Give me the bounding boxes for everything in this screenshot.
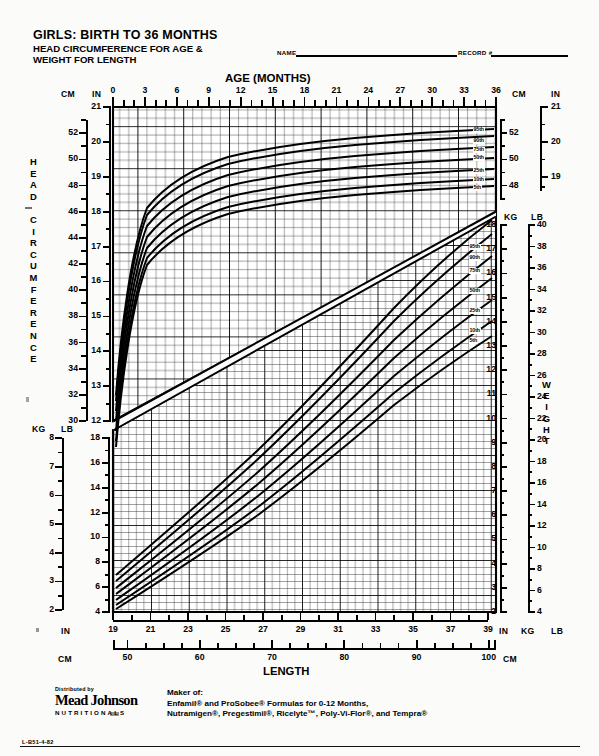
weight-kg-right-tick bbox=[500, 273, 507, 275]
growth-chart-page: GIRLS: BIRTH TO 36 MONTHS HEAD CIRCUMFER… bbox=[0, 0, 599, 756]
weight-lb-right-label: 38 bbox=[537, 241, 547, 251]
age-tick bbox=[463, 97, 465, 106]
hc-title-letter: E bbox=[28, 168, 39, 180]
length-cm-tick bbox=[181, 643, 183, 648]
weight-lb-right-label: 6 bbox=[537, 585, 542, 595]
weight-kg-right-label: 9 bbox=[478, 437, 496, 447]
weight-lb-left-tick bbox=[102, 611, 110, 613]
hc-cm-tick-label: 50 bbox=[54, 153, 78, 163]
weight-lb-left-tick bbox=[105, 450, 110, 452]
length-cm-tick bbox=[145, 643, 147, 648]
weight-lb-left-label: 10 bbox=[81, 531, 100, 541]
length-in-tick bbox=[356, 615, 358, 620]
weight-kg-left-tick bbox=[58, 538, 62, 540]
maker-products-line-1: Enfamil® and ProSobee® Formulas for 0-12… bbox=[167, 699, 497, 710]
growth-chart-graphic bbox=[0, 0, 599, 756]
hc-in-tick-label: 17 bbox=[81, 241, 101, 251]
age-tick-label: 0 bbox=[102, 85, 124, 95]
weight-lb-right-label: 16 bbox=[537, 477, 547, 487]
weight-lb-left-tick bbox=[105, 524, 110, 526]
weight-kg-right-label: 11 bbox=[478, 388, 496, 398]
length-in-tick-label: 31 bbox=[327, 624, 349, 634]
weight-lb-right-tick bbox=[528, 557, 532, 559]
hc-title-letter: R bbox=[28, 307, 39, 319]
weight-title-letter: T bbox=[541, 435, 552, 446]
weight-lb-right-label: 4 bbox=[537, 606, 542, 616]
weight-kg-left-tick bbox=[58, 509, 62, 511]
hc-in-tick-label: 13 bbox=[81, 380, 101, 390]
weight-kg-left-label: 4 bbox=[36, 547, 54, 557]
weight-title-letter: H bbox=[541, 424, 552, 435]
weight-kg-right-tick bbox=[500, 430, 504, 432]
weight-lb-right-tick bbox=[528, 256, 532, 258]
weight-lb-left-tick bbox=[102, 512, 110, 514]
weight-lb-right-tick bbox=[528, 235, 532, 237]
length-in-tick bbox=[225, 612, 227, 620]
weight-kg-right-label: 12 bbox=[478, 364, 496, 374]
weight-lb-right-tick bbox=[528, 493, 532, 495]
weight-kg-right-tick bbox=[500, 406, 504, 408]
hc-cm-tick-label: 52 bbox=[54, 127, 78, 137]
weight-title-letter: E bbox=[541, 390, 552, 401]
hc-in-tick bbox=[106, 333, 111, 335]
wfl-percentile-label: 5th bbox=[469, 338, 478, 344]
hc-cm-tick-label: 46 bbox=[54, 206, 78, 216]
weight-lb-right-label: 18 bbox=[537, 456, 547, 466]
weight-lb-left-tick bbox=[105, 549, 110, 551]
weight-lb-left-tick bbox=[102, 437, 110, 439]
length-cm-tick bbox=[380, 643, 382, 648]
hc-in-right-tick bbox=[540, 106, 548, 108]
hc-title-letter: M bbox=[28, 272, 39, 284]
age-tick bbox=[325, 100, 327, 106]
hc-cm-right-tick bbox=[500, 145, 505, 147]
weight-kg-right-tick bbox=[500, 357, 504, 359]
age-tick bbox=[378, 100, 380, 106]
hc-in-tick bbox=[103, 211, 111, 213]
length-in-tick bbox=[131, 615, 133, 620]
length-kg-caption: KG bbox=[521, 626, 535, 636]
weight-lb-left-tick bbox=[105, 599, 110, 601]
length-in-tick bbox=[281, 615, 283, 620]
weight-title-letter: W bbox=[541, 379, 552, 390]
weight-title-letter: I bbox=[541, 401, 552, 412]
hc-cm-right-label: 52 bbox=[509, 127, 519, 137]
length-cm-axis-line bbox=[113, 648, 496, 650]
weight-lb-right-tick bbox=[528, 364, 532, 366]
hc-cm-tick bbox=[81, 407, 86, 409]
weight-lb-right-tick bbox=[528, 611, 535, 613]
age-tick bbox=[336, 97, 338, 106]
weight-kg-right-tick bbox=[500, 563, 507, 565]
weight-kg-right-label: 16 bbox=[478, 267, 496, 277]
age-tick-label: 36 bbox=[485, 85, 507, 95]
weight-kg-right-tick bbox=[500, 285, 504, 287]
distributor-logo-block: Distributed by Mead Johnson NUTRITIONALS bbox=[55, 686, 155, 716]
age-tick bbox=[261, 100, 263, 106]
hc-in-tick-label: 16 bbox=[81, 275, 101, 285]
weight-lb-right-tick bbox=[528, 299, 532, 301]
age-tick-label: 21 bbox=[325, 85, 347, 95]
length-cm-tick bbox=[127, 640, 129, 648]
length-in-tick bbox=[431, 615, 433, 620]
age-tick-label: 18 bbox=[294, 85, 316, 95]
hc-cm-tick bbox=[79, 159, 86, 161]
weight-kg-right-tick bbox=[500, 418, 507, 420]
weight-lb-right-label: 10 bbox=[537, 542, 547, 552]
hc-percentile-label: 10th bbox=[473, 177, 485, 183]
weight-lb-right-label: 40 bbox=[537, 219, 547, 229]
hc-title-letter: U bbox=[28, 260, 39, 272]
weight-lb-right-label: 28 bbox=[537, 348, 547, 358]
hc-in-tick bbox=[106, 263, 111, 265]
hc-in-right-tick bbox=[540, 141, 548, 143]
scan-artifact bbox=[110, 712, 119, 716]
weight-lb-right-label: 12 bbox=[537, 520, 547, 530]
weight-lb-left-tick bbox=[102, 586, 110, 588]
hc-title-letter: C bbox=[28, 342, 39, 354]
age-tick bbox=[165, 100, 167, 106]
weight-lb-right-tick bbox=[528, 246, 535, 248]
length-cm-tick bbox=[217, 643, 219, 648]
weight-kg-right-tick bbox=[500, 297, 507, 299]
hc-in-tick-label: 14 bbox=[81, 345, 101, 355]
weight-kg-right-label: 10 bbox=[478, 413, 496, 423]
hc-in-tick bbox=[106, 403, 111, 405]
hc-cm-right-label: 48 bbox=[509, 180, 519, 190]
